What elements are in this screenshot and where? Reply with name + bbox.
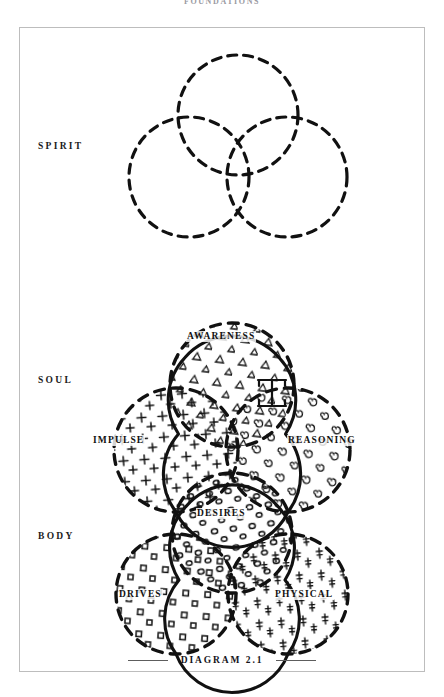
region-label-physical: PHYSICAL: [274, 589, 334, 600]
page-frame: [19, 27, 425, 672]
tier-label-spirit: SPIRIT: [38, 141, 83, 151]
region-label-drives: DRIVES: [118, 589, 163, 600]
caption-rule-left: [128, 660, 168, 661]
figure-caption: DIAGRAM 2.1: [19, 655, 425, 665]
tier-label-body: BODY: [38, 531, 75, 541]
region-label-reasoning: REASONING: [287, 435, 357, 446]
caption-rule-right: [276, 660, 316, 661]
region-label-awareness: AWARENESS: [186, 331, 256, 342]
region-label-impulse: IMPULSE: [92, 435, 145, 446]
tier-label-soul: SOUL: [38, 375, 73, 385]
region-label-desires: DESIRES: [196, 508, 247, 519]
running-head: FOUNDATIONS: [0, 0, 444, 6]
caption-text: DIAGRAM 2.1: [181, 655, 264, 665]
